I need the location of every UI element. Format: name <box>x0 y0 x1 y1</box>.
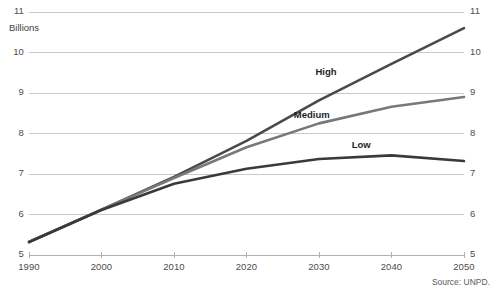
gridlines-group <box>29 12 464 255</box>
x-axis-tick-label: 2010 <box>149 261 199 272</box>
source-note: Source: UNPD. <box>432 277 490 287</box>
y-axis-tick-label: 7 <box>0 167 24 178</box>
series-label-medium: Medium <box>294 109 330 120</box>
series-lines-group <box>29 28 464 242</box>
series-label-high: High <box>316 66 337 77</box>
y-axis-tick-label: 8 <box>470 127 475 138</box>
x-axis-tick-label: 1990 <box>4 261 54 272</box>
x-axis-tick-label: 2050 <box>439 261 489 272</box>
y-axis-tick-label: 5 <box>0 248 24 259</box>
y-axis-tick-label: 10 <box>470 46 481 57</box>
y-axis-tick-label: 7 <box>470 167 475 178</box>
y-axis-tick-label: 6 <box>0 208 24 219</box>
series-line <box>29 155 464 242</box>
y-axis-tick-label: 10 <box>0 46 24 57</box>
y-axis-tick-label: 5 <box>470 248 475 259</box>
population-projection-chart: Billions 567891011 567891011 19902000201… <box>0 0 497 291</box>
x-axis-tick-label: 2030 <box>294 261 344 272</box>
y-axis-tick-label: 6 <box>470 208 475 219</box>
y-axis-tick-label: 11 <box>470 5 480 16</box>
y-axis-tick-label: 11 <box>0 5 24 16</box>
series-label-low: Low <box>352 139 371 150</box>
y-axis-tick-label: 9 <box>0 86 24 97</box>
x-axis-tick-label: 2000 <box>77 261 127 272</box>
x-axis-tick-label: 2020 <box>222 261 272 272</box>
series-line <box>29 28 464 242</box>
unit-label: Billions <box>9 22 39 33</box>
chart-plot-area <box>0 0 497 291</box>
y-axis-tick-label: 8 <box>0 127 24 138</box>
y-axis-tick-label: 9 <box>470 86 475 97</box>
x-axis-tick-label: 2040 <box>367 261 417 272</box>
